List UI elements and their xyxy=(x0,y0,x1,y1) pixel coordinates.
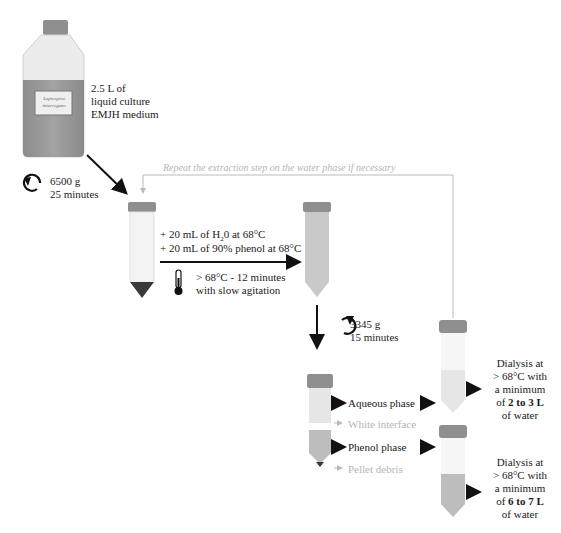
thermometer-icon xyxy=(175,270,183,295)
tube-phases-icon xyxy=(307,374,333,467)
culture-bottle-icon xyxy=(23,20,84,157)
white-interface-label: White interface xyxy=(348,418,416,431)
tube-phenol-icon xyxy=(439,425,467,517)
bottle-label: Leptospira interrogans xyxy=(36,95,72,109)
phenol-phase-label: Phenol phase xyxy=(348,441,406,454)
incubation-mode: with slow agitation xyxy=(196,284,280,297)
tube-mixed-icon xyxy=(303,202,331,297)
aqueous-phase-label: Aqueous phase xyxy=(348,397,415,410)
centrifuge2-time: 15 minutes xyxy=(350,331,399,344)
culture-type: liquid culture xyxy=(91,95,150,108)
centrifuge1-speed: 6500 g xyxy=(50,175,80,188)
add-phenol-step: + 20 mL of 90% phenol at 68°C xyxy=(160,242,301,255)
incubation-temp: > 68°C - 12 minutes xyxy=(196,271,285,284)
culture-volume: 2.5 L of xyxy=(91,82,126,95)
dialysis2-text: Dialysis at > 68°C with a minimum of 6 t… xyxy=(484,456,556,521)
repeat-note: Repeat the extraction step on the water … xyxy=(163,162,395,174)
tube-aqueous-icon xyxy=(439,320,467,413)
centrifuge2-speed: 3345 g xyxy=(350,318,380,331)
centrifuge1-time: 25 minutes xyxy=(50,188,99,201)
pellet-debris-label: Pellet debris xyxy=(348,463,403,476)
diagram-graphics xyxy=(0,0,561,533)
culture-medium: EMJH medium xyxy=(91,108,159,121)
dialysis1-text: Dialysis at > 68°C with a minimum of 2 t… xyxy=(484,357,556,422)
tube-pellet-icon xyxy=(128,202,156,298)
